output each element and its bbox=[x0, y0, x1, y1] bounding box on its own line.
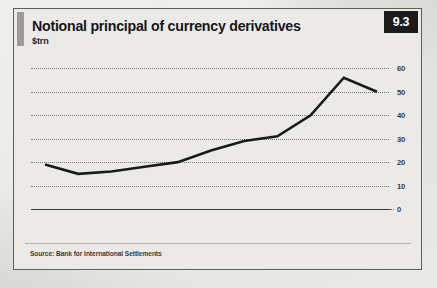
y-axis-tick-label: 40 bbox=[397, 111, 405, 120]
chart-plot-area: 0102030405060199819992000200120022003200… bbox=[31, 57, 405, 219]
chart-title: Notional principal of currency derivativ… bbox=[32, 18, 301, 34]
series-polyline bbox=[45, 78, 377, 174]
page-background: Notional principal of currency derivativ… bbox=[0, 0, 437, 288]
y-axis-tick-label: 30 bbox=[397, 134, 405, 143]
figure-number-badge: 9.3 bbox=[384, 11, 418, 33]
y-axis-tick-label: 10 bbox=[397, 181, 405, 190]
data-series-line bbox=[31, 57, 391, 219]
chart-card: Notional principal of currency derivativ… bbox=[13, 8, 422, 270]
y-axis-tick-label: 0 bbox=[397, 205, 401, 214]
source-note: Source: Bank for International Settlemen… bbox=[30, 250, 162, 257]
footer-divider bbox=[25, 243, 411, 244]
y-axis-tick-label: 50 bbox=[397, 87, 405, 96]
title-accent-bar bbox=[17, 12, 24, 46]
y-axis-tick-label: 20 bbox=[397, 158, 405, 167]
chart-subtitle-units: $trn bbox=[32, 36, 49, 46]
y-axis-tick-label: 60 bbox=[397, 64, 405, 73]
